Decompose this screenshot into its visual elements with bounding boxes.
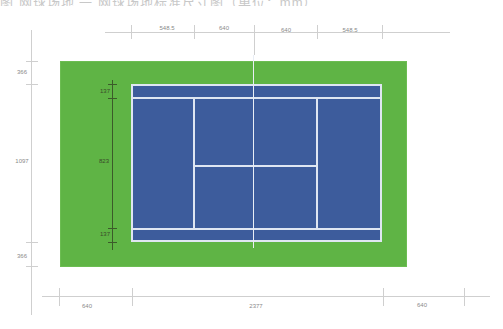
top-dim-label: 548.5 bbox=[159, 25, 174, 31]
service-line-left bbox=[193, 98, 195, 229]
top-dim-label: 548.5 bbox=[342, 27, 357, 33]
left-tick-3 bbox=[26, 242, 38, 243]
bottom-tick-3 bbox=[383, 288, 384, 306]
left-dim-label: 366 bbox=[17, 69, 27, 75]
top-dim-label: 640 bbox=[281, 27, 291, 33]
bottom-dim-label: 640 bbox=[82, 303, 92, 309]
left-dim-label: 1097 bbox=[15, 158, 28, 164]
bottom-dimension-line bbox=[42, 296, 490, 297]
left-dimension-line bbox=[31, 30, 32, 315]
service-line-right bbox=[316, 98, 318, 229]
top-tick-4 bbox=[317, 25, 318, 39]
top-tick-2 bbox=[194, 25, 195, 39]
top-dimension-line bbox=[105, 32, 450, 33]
top-tick-3 bbox=[254, 25, 255, 55]
tennis-court bbox=[131, 84, 382, 242]
inner-tick-4 bbox=[108, 242, 117, 243]
inner-dim-label: 137 bbox=[100, 231, 110, 237]
center-service-line bbox=[194, 165, 317, 167]
figure-caption: 图 网球场地 一 网球场地标准尺寸图（单位：mm） bbox=[0, 0, 360, 6]
doubles-sideline-top bbox=[131, 97, 382, 99]
top-dim-label: 640 bbox=[219, 25, 229, 31]
top-tick-1 bbox=[131, 25, 132, 39]
inner-dim-label: 823 bbox=[99, 158, 109, 164]
inner-tick-1 bbox=[108, 84, 117, 85]
left-tick-4 bbox=[26, 266, 38, 267]
bottom-tick-1 bbox=[59, 288, 60, 306]
left-dim-label: 366 bbox=[17, 253, 27, 259]
inner-tick-2 bbox=[108, 98, 117, 99]
bottom-dim-label: 2377 bbox=[249, 303, 262, 309]
inner-dimension-line bbox=[112, 80, 113, 250]
bottom-dim-label: 640 bbox=[417, 302, 427, 308]
left-tick-2 bbox=[26, 84, 38, 85]
top-tick-5 bbox=[382, 25, 383, 39]
doubles-sideline-bottom bbox=[131, 228, 382, 230]
left-tick-1 bbox=[26, 61, 38, 62]
inner-dim-label: 137 bbox=[100, 88, 110, 94]
bottom-tick-4 bbox=[464, 288, 465, 306]
inner-tick-3 bbox=[108, 228, 117, 229]
bottom-tick-2 bbox=[132, 288, 133, 306]
net-line bbox=[253, 55, 254, 248]
